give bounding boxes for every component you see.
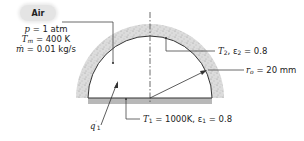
mass-flow-label: ṁ = 0.01 kg/s [14, 45, 78, 55]
heat-rate-label: q′1 [90, 120, 101, 131]
base-temp-emissivity-label: T1 = 1000K, ε1 = 0.8 [143, 115, 232, 124]
air-properties: p = 1 atm Tm = 400 K ṁ = 0.01 kg/s [14, 25, 78, 55]
radius-arrow [150, 71, 205, 98]
air-label: Air [20, 5, 56, 21]
radius-label: ro = 20 mm [246, 66, 296, 75]
dome-temp-emissivity-label: T2, ε2 = 0.8 [218, 47, 267, 56]
